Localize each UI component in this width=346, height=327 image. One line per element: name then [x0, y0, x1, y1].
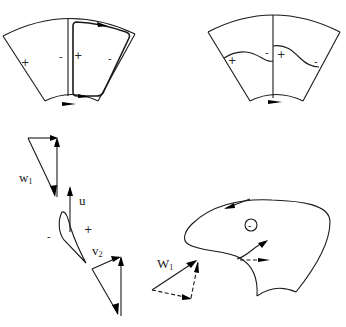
sign-plus-left: +: [21, 57, 29, 68]
suction-side-plus: +: [84, 224, 92, 235]
sign-plus-right: +: [277, 49, 285, 60]
top-right-sector: + - + -: [208, 15, 340, 104]
inner-arc: [250, 95, 303, 102]
vortex-sign: -: [248, 220, 252, 231]
sign-minus-left: -: [265, 47, 269, 58]
u-label: u: [79, 193, 86, 208]
right-edge: [303, 32, 340, 101]
diagram-canvas: + - + - + - + - w1 u - + v2: [0, 0, 346, 327]
arrowhead: [50, 185, 57, 197]
bottom-right-channel: - W1: [152, 199, 330, 300]
sign-minus-left: -: [59, 51, 63, 62]
sign-minus-right: -: [108, 53, 112, 64]
v2-label: v2: [92, 243, 103, 259]
arrowhead: [258, 258, 270, 262]
sign-plus-right: +: [74, 50, 82, 61]
arrowhead: [182, 294, 192, 300]
left-edge: [208, 32, 250, 101]
rotation-arrow: [62, 102, 76, 106]
channel-bottom-arc: [257, 288, 296, 296]
top-left-sector: + - + -: [3, 18, 135, 106]
outer-arc: [208, 15, 340, 32]
rotation-arrow: [268, 100, 282, 104]
w1-label: W1: [157, 256, 173, 272]
sign-minus-right: -: [314, 56, 318, 67]
left-edge: [3, 36, 45, 101]
arrowhead: [112, 303, 119, 315]
pressure-side-minus: -: [47, 231, 51, 242]
arrowhead: [67, 186, 73, 196]
sign-plus-left: +: [228, 55, 236, 66]
bottom-left-blade: w1 u - + v2: [19, 135, 124, 316]
outer-arc: [3, 18, 135, 36]
blade-profile: [59, 212, 86, 263]
arrowhead: [258, 240, 268, 248]
w1-label: w1: [19, 170, 32, 186]
